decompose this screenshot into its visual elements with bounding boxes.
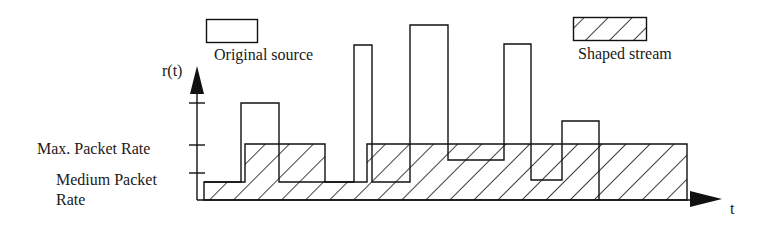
traffic-shaping-diagram — [0, 0, 765, 229]
legend-original-swatch — [207, 20, 258, 43]
max-packet-rate-label: Max. Packet Rate — [37, 140, 150, 157]
x-axis-arrow-icon — [690, 191, 722, 207]
shaped-stream-area — [204, 144, 687, 200]
medium-packet-rate-label-line2: Rate — [56, 191, 85, 208]
medium-packet-rate-label-line1: Medium Packet — [56, 171, 157, 188]
legend-shaped-swatch — [574, 18, 647, 41]
legend-original-label: Original source — [214, 46, 313, 63]
y-axis-arrow-icon — [190, 66, 204, 94]
x-axis-label: t — [730, 200, 734, 217]
y-axis-label: r(t) — [162, 62, 182, 79]
legend-shaped-label: Shaped stream — [578, 45, 672, 62]
